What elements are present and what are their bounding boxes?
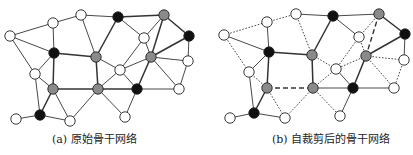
node-C-white <box>76 10 86 20</box>
node-E-gray <box>374 9 384 19</box>
node-G-white <box>354 32 364 42</box>
node-M-white <box>244 67 254 77</box>
node-O-gray <box>93 84 103 94</box>
node-D-black <box>328 11 338 21</box>
edge-A-H-thin <box>10 36 54 53</box>
edge-C-I-thin <box>81 15 96 57</box>
edge-O-S-thin <box>70 89 98 121</box>
graph-original-backbone <box>5 10 194 126</box>
node-P-black <box>348 83 358 93</box>
edge-H-I-thick <box>269 52 312 55</box>
node-Q-white <box>174 84 184 94</box>
edge-A-B-dotted <box>224 22 267 35</box>
node-A-white <box>5 31 15 41</box>
node-C-white <box>291 9 301 19</box>
node-I-gray <box>307 50 317 60</box>
node-E-gray <box>159 10 169 20</box>
edge-J-Q-thin <box>151 57 179 89</box>
graph-self-pruned-backbone <box>219 9 410 123</box>
edge-O-S-dotted <box>285 88 313 118</box>
node-A-white <box>219 30 229 40</box>
node-N-gray <box>48 84 58 94</box>
node-B-white <box>262 17 272 27</box>
node-J-gray <box>361 51 371 61</box>
node-R-black <box>35 110 45 120</box>
node-P-black <box>132 84 142 94</box>
edge-A-B-thin <box>10 23 53 36</box>
node-F-black <box>400 29 410 39</box>
edge-A-M-thin <box>10 36 35 74</box>
node-S-white <box>65 116 75 126</box>
edge-M-R-thin <box>249 72 254 113</box>
backbone-network-diagrams <box>0 0 413 130</box>
node-G-white <box>139 33 149 43</box>
edge-D-I-thick <box>312 16 333 55</box>
node-B-white <box>48 18 58 28</box>
node-U-white <box>11 114 21 124</box>
figure: (a) 原始骨干网络 (b) 自裁剪后的骨干网络 <box>0 0 413 155</box>
node-N-gray <box>262 83 272 93</box>
node-H-black <box>49 48 59 58</box>
node-R-black <box>249 108 259 118</box>
node-F-black <box>184 31 194 41</box>
edge-A-H-thin <box>224 35 269 52</box>
node-H-black <box>264 47 274 57</box>
caption-self-pruned-backbone: (b) 自裁剪后的骨干网络 <box>272 130 390 146</box>
edge-D-E-thin <box>333 14 379 16</box>
node-O-gray <box>308 83 318 93</box>
node-M-white <box>30 69 40 79</box>
edge-O-T-dotted <box>313 88 340 116</box>
edge-O-T-thin <box>98 89 125 117</box>
node-L-white <box>331 64 341 74</box>
node-K-white <box>183 56 193 66</box>
caption-original-backbone: (a) 原始骨干网络 <box>52 130 137 146</box>
node-Q-white <box>389 83 399 93</box>
node-I-gray <box>91 52 101 62</box>
edge-H-I-thick <box>54 53 96 57</box>
node-K-white <box>399 55 409 65</box>
node-S-white <box>280 113 290 123</box>
node-T-white <box>335 111 345 121</box>
edge-C-I-dotted <box>296 14 312 55</box>
edge-J-K-dotted <box>366 56 404 60</box>
node-J-gray <box>146 52 156 62</box>
edge-A-M-dotted <box>224 35 249 72</box>
node-T-white <box>120 112 130 122</box>
edge-D-E-thick <box>118 15 164 17</box>
node-U-white <box>225 113 235 123</box>
node-D-black <box>113 12 123 22</box>
node-L-white <box>115 65 125 75</box>
edge-D-I-thick <box>96 17 118 57</box>
edge-J-Q-dotted <box>366 56 394 88</box>
edge-M-R-thin <box>35 74 40 115</box>
